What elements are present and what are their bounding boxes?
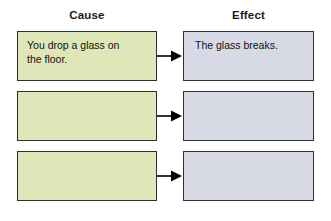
effect-text (184, 152, 313, 159)
organizer-row (0, 91, 331, 141)
cause-text (18, 92, 156, 99)
arrow-right-icon (157, 91, 183, 141)
cause-text (18, 152, 156, 159)
arrow-right-icon (157, 31, 183, 81)
effect-box[interactable]: The glass breaks. (183, 31, 314, 81)
cause-box[interactable]: You drop a glass on the floor. (17, 31, 157, 81)
effect-box[interactable] (183, 151, 314, 201)
organizer-row (0, 151, 331, 201)
cause-effect-organizer: Cause Effect You drop a glass on the flo… (0, 0, 331, 221)
effect-text: The glass breaks. (184, 32, 313, 53)
cause-box[interactable] (17, 91, 157, 141)
cause-box[interactable] (17, 151, 157, 201)
column-header-cause: Cause (17, 8, 157, 22)
effect-box[interactable] (183, 91, 314, 141)
arrow-right-icon (157, 151, 183, 201)
cause-text: You drop a glass on the floor. (18, 32, 156, 66)
column-header-effect: Effect (183, 8, 314, 22)
organizer-row: You drop a glass on the floor. The glass… (0, 31, 331, 81)
effect-text (184, 92, 313, 99)
